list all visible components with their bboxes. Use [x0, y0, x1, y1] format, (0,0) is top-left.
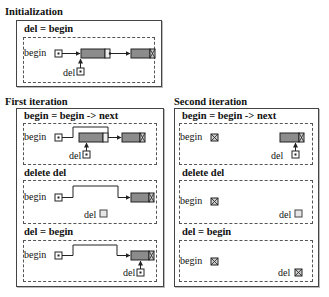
pointer-icon	[55, 252, 62, 259]
linked-list-diagram	[175, 109, 318, 286]
pointer-icon	[55, 50, 62, 57]
pointer-icon	[137, 269, 144, 276]
null-pointer-icon	[211, 198, 218, 205]
initialization-frame: del = begin begin del	[16, 20, 162, 87]
list-node	[122, 133, 145, 142]
second-iteration-heading: Second iteration	[174, 96, 247, 107]
linked-list-diagram	[17, 109, 163, 286]
list-node	[131, 251, 154, 260]
pointer-icon	[292, 151, 299, 158]
null-pointer-icon	[295, 269, 302, 276]
pointer-icon	[55, 134, 62, 141]
dangling-pointer-icon	[100, 210, 107, 217]
pointer-icon	[77, 68, 84, 75]
list-node	[79, 133, 108, 142]
second-iteration-frame: begin = begin -> next begin del delete d…	[174, 108, 319, 287]
first-iteration-heading: First iteration	[5, 96, 68, 107]
list-node	[280, 133, 304, 142]
list-node	[81, 49, 110, 58]
initialization-heading: Initialization	[5, 6, 63, 17]
null-pointer-icon	[211, 258, 218, 265]
list-node	[131, 49, 155, 58]
pointer-icon	[83, 151, 90, 158]
first-iteration-frame: begin = begin -> next begin del delete d…	[16, 108, 164, 287]
list-node	[131, 193, 154, 202]
pointer-icon	[55, 194, 62, 201]
linked-list-diagram	[17, 21, 161, 86]
dangling-pointer-icon	[295, 210, 302, 217]
null-pointer-icon	[211, 134, 218, 141]
